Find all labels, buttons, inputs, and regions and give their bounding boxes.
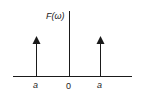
impulse-arrowhead-negative-icon: [33, 36, 41, 44]
y-axis-label: F(ω): [46, 11, 65, 21]
tick-label-negative-a: a: [33, 80, 38, 90]
tick-label-positive-a: a: [97, 80, 102, 90]
tick-label-origin: 0: [66, 81, 71, 91]
impulse-arrowhead-positive-icon: [97, 36, 105, 44]
spectrum-diagram: F(ω) a 0 a: [0, 0, 146, 97]
